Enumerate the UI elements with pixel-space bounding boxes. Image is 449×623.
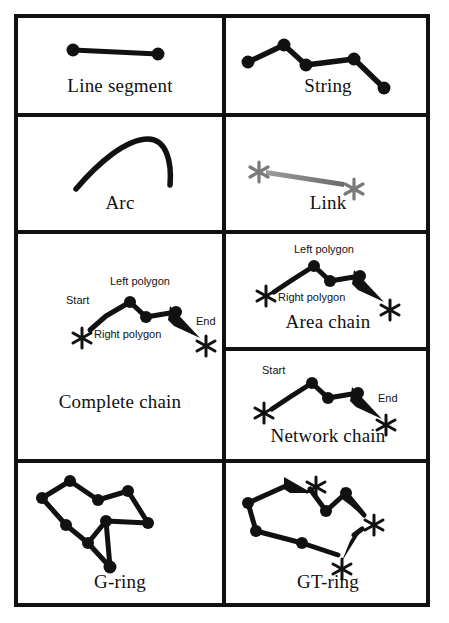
caption-network-chain: Network chain [226, 425, 430, 447]
caption-link: Link [226, 192, 430, 214]
asterisk-icon [365, 515, 383, 535]
cell-link: Link [226, 117, 430, 230]
caption-g-ring: G-ring [18, 571, 222, 593]
complete-chain-graphic [18, 234, 222, 459]
asterisk-icon [197, 336, 215, 356]
area-chain-label-right-polygon: Right polygon [278, 292, 345, 303]
complete-chain-label-start: Start [66, 295, 89, 306]
cell-area-chain: Left polygon Right polygon Area chain [226, 234, 430, 347]
line-segment-graphic [18, 18, 222, 113]
cell-g-ring: G-ring [18, 463, 222, 607]
network-chain-label-end: End [378, 393, 398, 404]
asterisk-icon [250, 162, 268, 182]
asterisk-icon [255, 403, 273, 423]
string-graphic [226, 18, 430, 113]
complete-chain-label-right-polygon: Right polygon [94, 329, 161, 340]
cell-arc: Arc [18, 117, 222, 230]
cell-network-chain: Start End Network chain [226, 351, 430, 459]
complete-chain-label-left-polygon: Left polygon [110, 276, 170, 287]
complete-chain-label-end: End [196, 316, 216, 327]
caption-string: String [226, 75, 430, 97]
caption-gt-ring: GT-ring [226, 571, 430, 593]
cell-string: String [226, 18, 430, 113]
network-chain-label-start: Start [262, 365, 285, 376]
caption-line-segment: Line segment [18, 75, 222, 97]
cell-line-segment: Line segment [18, 18, 222, 113]
cell-gt-ring: GT-ring [226, 463, 430, 607]
cell-complete-chain: Start Left polygon Right polygon End Com… [18, 234, 222, 459]
figure-frame: Line segment String Arc [14, 14, 430, 607]
caption-complete-chain: Complete chain [18, 391, 222, 413]
asterisk-icon [257, 286, 275, 306]
caption-area-chain: Area chain [226, 311, 430, 333]
caption-arc: Arc [18, 192, 222, 214]
area-chain-label-left-polygon: Left polygon [294, 244, 354, 255]
figure-grid: Line segment String Arc [18, 18, 426, 603]
